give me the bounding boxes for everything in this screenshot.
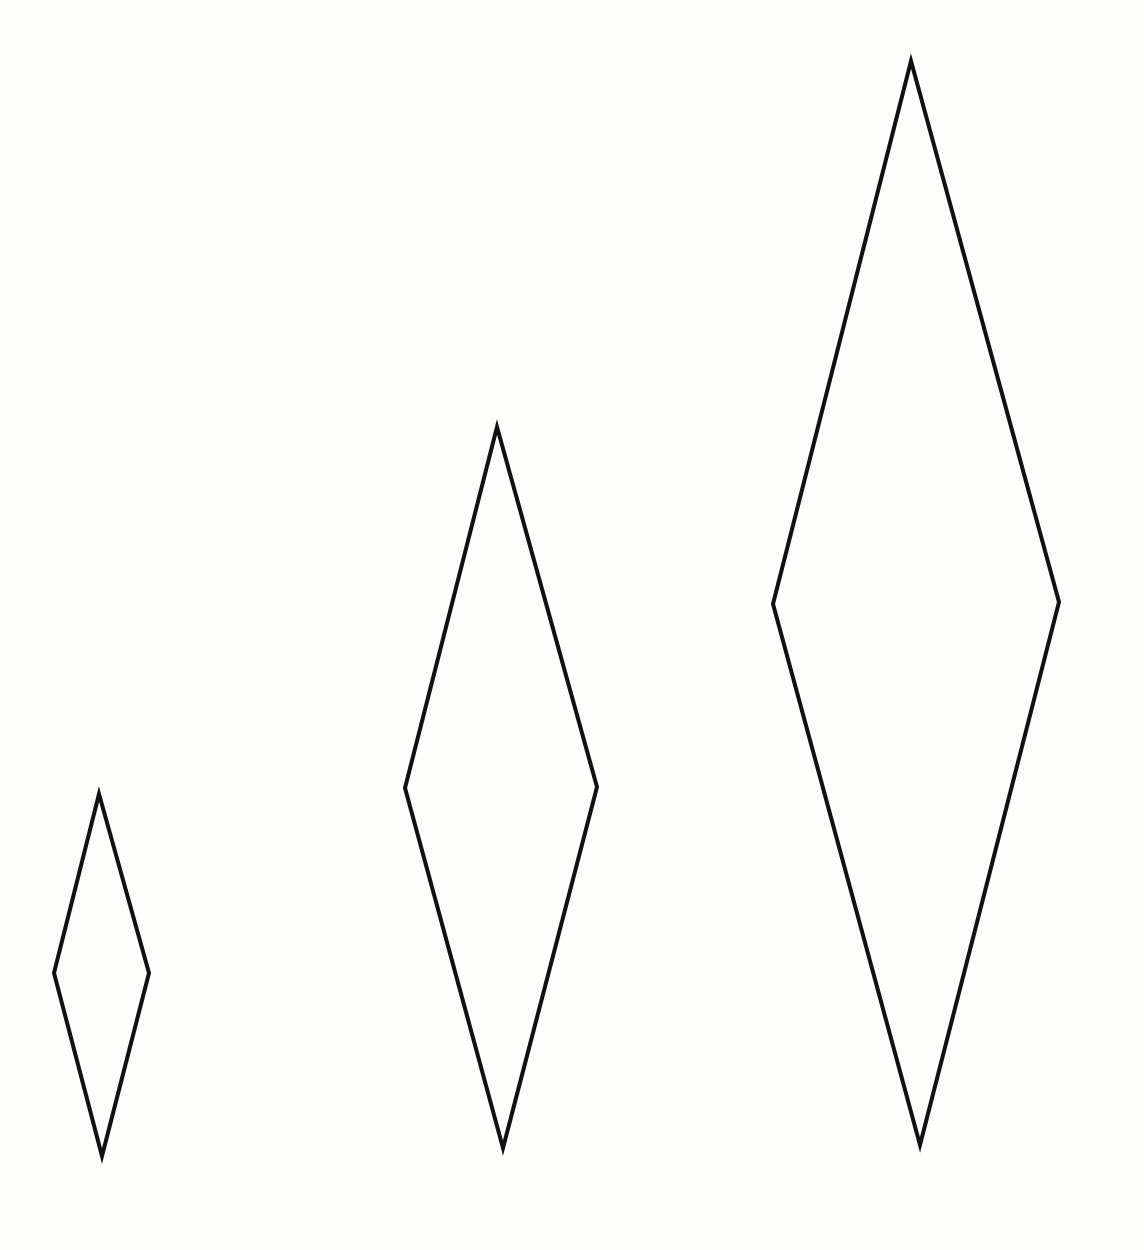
diagram-canvas	[0, 0, 1144, 1250]
diagram-stage	[0, 0, 1144, 1250]
small-diamond-shape	[54, 794, 149, 1156]
large-diamond-shape	[773, 61, 1059, 1145]
medium-diamond-shape	[405, 427, 597, 1148]
